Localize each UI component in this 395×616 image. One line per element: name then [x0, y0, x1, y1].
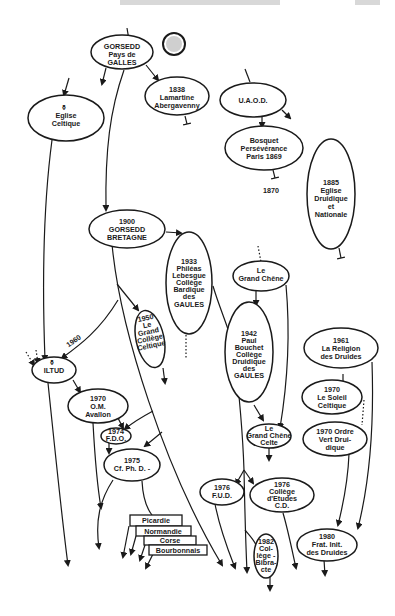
svg-text:ILTUD: ILTUD: [44, 366, 65, 375]
svg-text:GAULES: GAULES: [174, 300, 204, 309]
svg-text:Normandie: Normandie: [144, 527, 182, 536]
svg-text:des Druides: des Druides: [306, 548, 347, 557]
svg-text:Celtique: Celtique: [318, 401, 346, 410]
node-1970-soleil-celtique: 1970 Le Soleil Celtique: [302, 380, 362, 414]
regional-boxes: Picardie Normandie Corse Bourbonnais: [130, 515, 207, 555]
node-1885-eglise-druidique: 1885 Eglise Druidique et Nationale: [307, 139, 355, 249]
svg-text:dique: dique: [325, 443, 344, 452]
node-1900-gorsedd-bretagne: 1900 GORSEDD BRETAGNE: [89, 210, 165, 248]
svg-text:Abergavenny: Abergavenny: [154, 101, 200, 110]
svg-text:Avallon: Avallon: [85, 410, 111, 419]
node-1942-paul-bouchet: 1942 Paul Bouchet Collège Druidique des …: [225, 302, 273, 402]
node-le-grand-chene-celte: Le Grand Chêne Celte: [246, 424, 291, 448]
node-1980-frat-init-des-druides: 1980 Frat. Init. des Druides: [297, 529, 357, 561]
svg-text:Cf. Ph. D. -: Cf. Ph. D. -: [114, 464, 151, 473]
svg-text:U.A.O.D.: U.A.O.D.: [238, 96, 267, 105]
box-corse: Corse: [144, 536, 196, 545]
svg-text:F.U.D.: F.U.D.: [212, 491, 232, 500]
svg-text:Celte: Celte: [260, 438, 278, 447]
page-header-text: [120, 0, 280, 5]
node-1961-religion-des-druides: 1961 La Religion des Druides: [304, 328, 378, 368]
node-gorsedd-pays-de-galles: GORSEDD Pays de GALLES: [91, 35, 153, 69]
node-le-grand-chene: Le Grand Chêne: [233, 261, 289, 291]
node-eglise-celtique: ⚱ Eglise Celtique: [28, 95, 104, 141]
svg-text:Picardie: Picardie: [142, 516, 170, 525]
node-1838-lamartine: 1838 Lamartine Abergavenny: [145, 77, 209, 115]
svg-text:Grand Chêne: Grand Chêne: [238, 274, 283, 283]
label-1870: 1870: [263, 186, 279, 195]
page-number: [355, 0, 380, 5]
svg-text:Bourbonnais: Bourbonnais: [156, 546, 200, 555]
svg-text:Nationale: Nationale: [315, 210, 347, 219]
node-1970-ordre-vert-druidique: 1970 Ordre Vert Drui- dique: [303, 422, 367, 456]
node-iltud: ⚱ ILTUD: [32, 357, 76, 383]
label-1960: 1960: [64, 333, 82, 350]
druidic-orders-diagram: GORSEDD Pays de GALLES 1838 Lamartine Ab…: [0, 0, 395, 616]
node-1970-om-avallon: 1970 O.M. Avallon: [68, 389, 128, 423]
node-1976-college-detudes-cd: 1976 Collège d'Etudes C.D.: [250, 478, 314, 512]
node-bosquet-perseverance: Bosquet Persévérance Paris 1869: [225, 126, 303, 170]
node-1976-fud: 1976 F.U.D.: [200, 479, 244, 505]
box-picardie: Picardie: [130, 515, 182, 526]
node-uaod: U.A.O.D.: [220, 83, 286, 117]
svg-text:Paris 1869: Paris 1869: [246, 152, 282, 161]
svg-text:BRETAGNE: BRETAGNE: [107, 233, 147, 242]
svg-text:cte: cte: [261, 565, 271, 574]
svg-text:C.D.: C.D.: [275, 501, 289, 510]
node-1933-phileas-lebesgue: 1933 Philéas Lebesgue Collège Bardique d…: [166, 232, 212, 334]
node-1974-fdo: 1974 F.D.O.: [101, 427, 131, 444]
svg-text:GAULES: GAULES: [234, 371, 264, 380]
seal-icon: [163, 33, 185, 55]
svg-text:Corse: Corse: [160, 536, 180, 545]
svg-text:des Druides: des Druides: [320, 352, 361, 361]
box-bourbonnais: Bourbonnais: [149, 545, 207, 555]
svg-text:F.D.O.: F.D.O.: [106, 434, 126, 443]
svg-text:GALLES: GALLES: [107, 58, 136, 67]
node-1982-college-bibracte: 1982 Col- lège - Bibra- cte: [254, 534, 278, 578]
node-1975-cf-ph-d: 1975 Cf. Ph. D. -: [104, 449, 160, 481]
box-normandie: Normandie: [136, 526, 191, 536]
svg-text:Celtique: Celtique: [52, 119, 80, 128]
